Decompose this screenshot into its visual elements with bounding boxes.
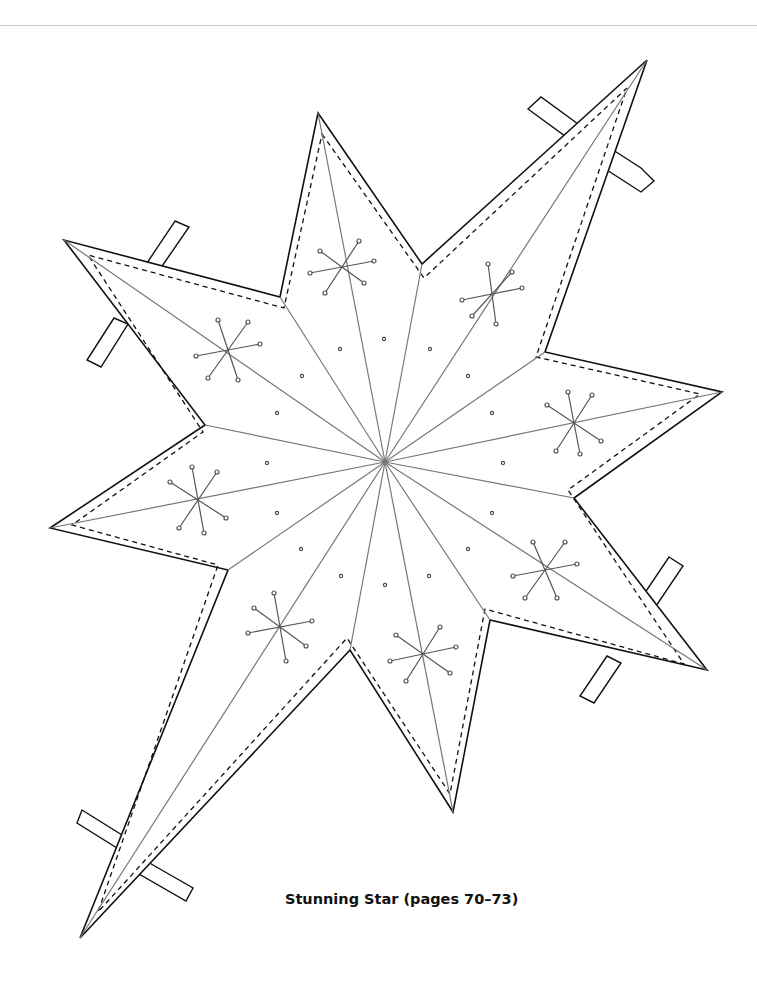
- glue-tab: [87, 318, 128, 367]
- figure-caption: Stunning Star (pages 70–73): [285, 891, 518, 907]
- glue-tab: [580, 656, 621, 703]
- star-outline: [50, 60, 722, 938]
- star-template-diagram: [0, 0, 757, 984]
